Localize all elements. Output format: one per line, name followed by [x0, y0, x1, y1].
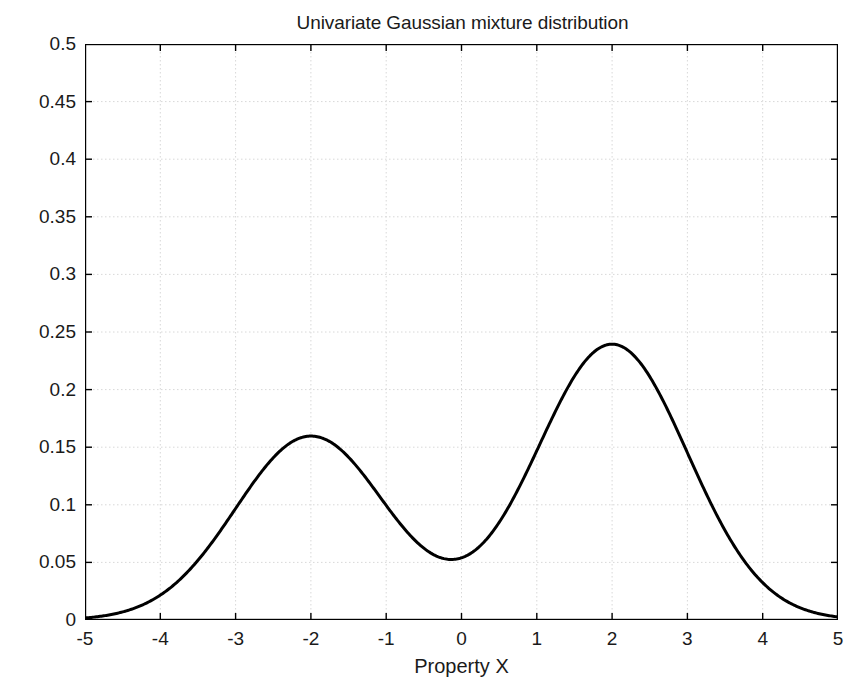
- y-axis-tick-label: 0.5: [50, 33, 85, 55]
- y-axis-tick-label: 0.2: [50, 379, 85, 401]
- plot-area: [85, 44, 838, 620]
- x-axis-tick-label: -2: [302, 628, 319, 650]
- y-axis-tick-label: 0.15: [39, 436, 85, 458]
- x-axis-tick-label: -4: [152, 628, 169, 650]
- x-axis-tick-label: -5: [77, 628, 94, 650]
- x-axis-tick-label: 2: [607, 628, 618, 650]
- x-axis-tick-label: 3: [682, 628, 693, 650]
- y-axis-tick-labels: 00.050.10.150.20.250.30.350.40.450.5: [0, 44, 85, 620]
- x-axis-tick-label: 4: [757, 628, 768, 650]
- x-axis-tick-labels: -5-4-3-2-1012345: [85, 620, 838, 652]
- chart-page: Univariate Gaussian mixture distribution…: [0, 0, 868, 692]
- x-axis-tick-label: 0: [456, 628, 467, 650]
- plot-svg: [85, 44, 838, 620]
- x-axis-tick-label: 5: [833, 628, 844, 650]
- y-axis-tick-label: 0.05: [39, 551, 85, 573]
- chart-title: Univariate Gaussian mixture distribution: [85, 12, 840, 34]
- y-axis-tick-label: 0.25: [39, 321, 85, 343]
- y-axis-tick-label: 0.35: [39, 206, 85, 228]
- y-axis-tick-label: 0.4: [50, 148, 85, 170]
- y-axis-tick-label: 0.1: [50, 494, 85, 516]
- x-axis-label: Property X: [85, 655, 838, 678]
- x-axis-tick-label: -3: [227, 628, 244, 650]
- y-axis-tick-label: 0.45: [39, 91, 85, 113]
- y-axis-tick-label: 0.3: [50, 263, 85, 285]
- x-axis-tick-label: 1: [532, 628, 543, 650]
- x-axis-tick-label: -1: [378, 628, 395, 650]
